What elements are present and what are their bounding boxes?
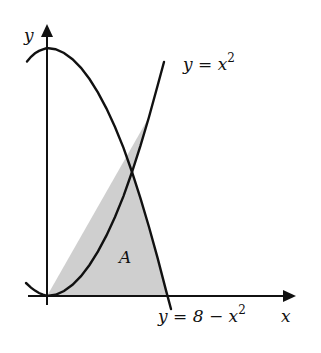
x-axis-arrowhead-icon <box>283 290 296 302</box>
label-y-equals-8-minus-x-squared: y = 8 − x2 <box>157 303 246 326</box>
label-y-equals-x-squared: y = x2 <box>182 51 235 74</box>
region-a-label: A <box>117 247 131 267</box>
x-axis-label: x <box>281 306 291 326</box>
y-axis-label: y <box>23 25 34 45</box>
y-axis-arrowhead-icon <box>41 24 53 37</box>
diagram-canvas: y x y = x2 y = 8 − x2 A <box>0 0 321 353</box>
